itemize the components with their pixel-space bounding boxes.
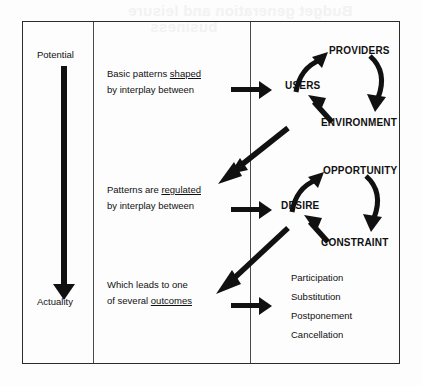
potential-label: Potential <box>37 49 74 60</box>
statement-3: Which leads to one of several outcomes <box>107 277 192 309</box>
column-divider-2 <box>250 22 251 363</box>
outcome-item-1: Participation <box>291 272 343 283</box>
statement-2-line-2: by interplay between <box>107 198 201 214</box>
arrow-shaft-statement-1-to-cycle-1 <box>231 87 261 92</box>
statement-2: Patterns are regulated by interplay betw… <box>107 182 201 214</box>
statement-1-line-1: Basic patterns shaped <box>107 66 201 82</box>
statement-3-line-1: Which leads to one <box>107 277 192 293</box>
statement-1-keyword: shaped <box>170 68 201 79</box>
bleed-through-text-line1: Budget generation and leisure <box>128 2 353 19</box>
statement-3-line-2-text: of several <box>107 295 151 306</box>
potential-to-actuality-arrow-shaft <box>61 66 67 288</box>
cycle-1-arrows <box>278 40 408 135</box>
actuality-label: Actuality <box>37 296 73 307</box>
right-arrow-icon-2 <box>259 201 272 219</box>
column-divider-1 <box>93 22 94 363</box>
statement-3-keyword: outcomes <box>151 295 192 306</box>
statement-2-line-1-text: Patterns are <box>107 184 161 195</box>
statement-1: Basic patterns shaped by interplay betwe… <box>107 66 201 98</box>
statement-1-line-2: by interplay between <box>107 82 201 98</box>
outcome-item-3: Postponement <box>291 310 352 321</box>
arrow-shaft-statement-2-to-cycle-2 <box>231 207 261 212</box>
arrow-shaft-statement-3-to-outcomes <box>231 303 261 308</box>
right-arrow-icon-1 <box>259 81 272 99</box>
statement-1-line-1-text: Basic patterns <box>107 68 170 79</box>
diagram-frame: Potential Actuality Basic patterns shape… <box>22 21 400 364</box>
cycle-2-arrows <box>274 160 404 255</box>
scanned-page: Budget generation and leisure business P… <box>0 0 422 386</box>
outcome-item-4: Cancellation <box>291 329 343 340</box>
outcome-item-2: Substitution <box>291 291 341 302</box>
statement-3-line-2: of several outcomes <box>107 293 192 309</box>
statement-2-keyword: regulated <box>161 184 201 195</box>
statement-2-line-1: Patterns are regulated <box>107 182 201 198</box>
